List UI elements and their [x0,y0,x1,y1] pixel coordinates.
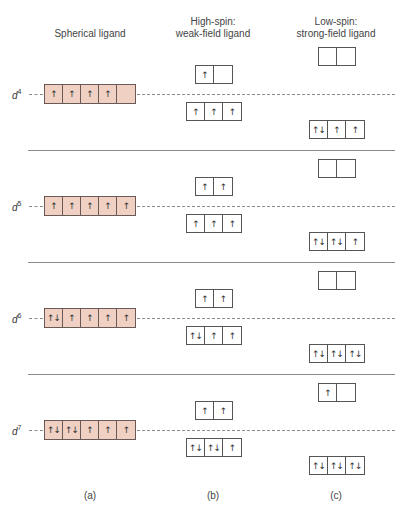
orbital-cell: ↑ [81,85,99,103]
orbital-cell [337,160,355,177]
high-spin-eg-orbitals: ↑ [195,65,233,84]
high-spin-t2g-orbitals: ↑↓↑↓↑ [186,438,242,457]
orbital-cell: ↑ [81,421,99,439]
orbital-cell: ↑ [45,85,63,103]
electron-count: 6 [18,312,22,319]
header-b-line2: weak-field ligand [148,28,278,40]
orbital-cell: ↑ [117,197,135,215]
orbital-cell [337,48,355,65]
orbital-cell: ↑ [63,309,81,327]
low-spin-t2g-orbitals: ↑↓↑↓↑↓ [309,344,365,363]
orbital-cell: ↑ [214,402,232,419]
header-b-line1: High-spin: [148,16,278,28]
barycenter-dashed-line [137,206,395,207]
low-spin-eg-orbitals [318,47,356,66]
high-spin-eg-orbitals: ↑↑ [195,401,233,420]
spherical-d-orbitals: ↑↑↑↑↑ [44,196,136,216]
header-a-text: Spherical ligand [54,28,125,39]
row-separator [28,262,395,263]
orbital-cell: ↑↓ [187,327,205,344]
electron-config-label: d6 [12,311,21,326]
orbital-cell: ↑↓ [346,345,364,362]
orbital-cell: ↑ [63,197,81,215]
orbital-cell [337,384,355,401]
header-high-spin: High-spin: weak-field ligand [148,16,278,40]
orbital-cell: ↑ [196,178,214,195]
orbital-cell: ↑ [99,309,117,327]
energy-level-dash [29,206,43,207]
orbital-cell: ↑↓ [45,309,63,327]
barycenter-dashed-line [137,430,395,431]
orbital-cell [319,48,337,65]
orbital-cell: ↑ [45,197,63,215]
header-low-spin: Low-spin: strong-field ligand [271,16,401,40]
high-spin-t2g-orbitals: ↑↓↑↑ [186,326,242,345]
barycenter-dashed-line [137,94,395,95]
orbital-cell: ↑ [63,85,81,103]
electron-config-label: d7 [12,423,21,438]
high-spin-t2g-orbitals: ↑↑↑ [186,214,242,233]
orbital-cell: ↑↓ [310,233,328,250]
orbital-cell: ↑↓ [187,439,205,456]
orbital-letter: d [12,202,18,213]
header-c-line2: strong-field ligand [271,28,401,40]
energy-level-dash [29,94,43,95]
orbital-cell: ↑ [81,197,99,215]
spherical-d-orbitals: ↑↓↑↑↑↑ [44,308,136,328]
energy-level-dash [29,430,43,431]
orbital-cell: ↑ [117,421,135,439]
orbital-cell: ↑ [223,327,241,344]
spherical-d-orbitals: ↑↓↑↓↑↑↑ [44,420,136,440]
electron-config-label: d5 [12,199,21,214]
orbital-cell: ↑ [99,197,117,215]
orbital-cell: ↑ [205,215,223,232]
low-spin-t2g-orbitals: ↑↓↑↓↑↓ [309,456,365,475]
orbital-letter: d [12,426,18,437]
orbital-cell: ↑↓ [346,457,364,474]
orbital-cell: ↑ [319,384,337,401]
orbital-cell: ↑ [99,85,117,103]
orbital-cell: ↑ [81,309,99,327]
low-spin-eg-orbitals: ↑ [318,383,356,402]
orbital-cell: ↑ [196,66,214,83]
orbital-cell: ↑↓ [310,345,328,362]
spherical-d-orbitals: ↑↑↑↑ [44,84,136,104]
header-c-line1: Low-spin: [271,16,401,28]
orbital-cell: ↑↓ [45,421,63,439]
orbital-cell: ↑↓ [310,457,328,474]
orbital-letter: d [12,314,18,325]
orbital-cell [214,66,232,83]
electron-count: 5 [18,200,22,207]
row-separator [28,374,395,375]
orbital-cell: ↑↓ [328,345,346,362]
orbital-cell: ↑ [187,215,205,232]
orbital-cell: ↑ [223,103,241,120]
orbital-cell [117,85,135,103]
orbital-cell: ↑ [196,290,214,307]
orbital-cell: ↑ [223,439,241,456]
orbital-cell: ↑ [346,121,364,138]
orbital-cell [319,160,337,177]
header-spherical-ligand: Spherical ligand [25,28,155,40]
orbital-cell: ↑ [328,121,346,138]
electron-count: 4 [18,88,22,95]
high-spin-t2g-orbitals: ↑↑↑ [186,102,242,121]
orbital-letter: d [12,90,18,101]
electron-config-label: d4 [12,87,21,102]
orbital-cell: ↑ [99,421,117,439]
orbital-cell: ↑ [223,215,241,232]
orbital-cell: ↑ [214,178,232,195]
orbital-cell: ↑ [117,309,135,327]
orbital-cell: ↑↓ [328,233,346,250]
barycenter-dashed-line [137,318,395,319]
orbital-cell: ↑↓ [328,457,346,474]
row-separator [28,150,395,151]
low-spin-eg-orbitals [318,271,356,290]
orbital-cell: ↑↓ [310,121,328,138]
orbital-cell: ↑↓ [205,439,223,456]
orbital-cell: ↑ [187,103,205,120]
caption-b: (b) [198,490,228,501]
orbital-cell: ↑ [214,290,232,307]
low-spin-t2g-orbitals: ↑↓↑↑ [309,120,365,139]
orbital-cell [337,272,355,289]
